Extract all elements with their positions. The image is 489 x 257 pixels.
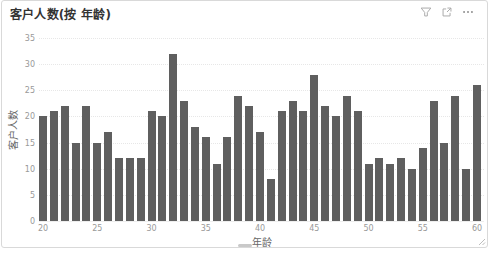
y-tick-label-10: 10 xyxy=(11,164,35,173)
bar-age-22[interactable] xyxy=(61,106,69,221)
x-tick-label-40: 40 xyxy=(248,224,272,233)
x-tick-label-45: 45 xyxy=(302,224,326,233)
bar-age-49[interactable] xyxy=(354,111,362,221)
x-tick-label-20: 20 xyxy=(31,224,55,233)
bar-age-28[interactable] xyxy=(126,158,134,221)
gridline-20 xyxy=(39,116,484,117)
bar-age-23[interactable] xyxy=(72,143,80,221)
bar-age-39[interactable] xyxy=(245,106,253,221)
bar-age-42[interactable] xyxy=(278,111,286,221)
bar-age-51[interactable] xyxy=(375,158,383,221)
bar-age-56[interactable] xyxy=(430,101,438,221)
y-tick-label-35: 35 xyxy=(11,34,35,43)
bar-age-38[interactable] xyxy=(234,96,242,221)
bar-age-33[interactable] xyxy=(180,101,188,221)
bar-age-25[interactable] xyxy=(93,143,101,221)
bar-age-43[interactable] xyxy=(289,101,297,221)
bar-age-50[interactable] xyxy=(365,164,373,222)
x-tick-label-30: 30 xyxy=(140,224,164,233)
bar-age-40[interactable] xyxy=(256,132,264,221)
gridline-25 xyxy=(39,90,484,91)
bar-age-20[interactable] xyxy=(39,116,47,221)
y-tick-label-5: 5 xyxy=(11,190,35,199)
y-tick-label-20: 20 xyxy=(11,112,35,121)
plot-area: 客户人数 年龄 05101520253035 20253035404550556… xyxy=(39,38,484,221)
page-title: 客户人数(按 年龄) xyxy=(10,5,111,22)
x-tick-label-25: 25 xyxy=(85,224,109,233)
bar-age-59[interactable] xyxy=(462,169,470,221)
bar-age-44[interactable] xyxy=(299,111,307,221)
x-axis-line xyxy=(39,221,484,222)
visual-header-toolbar xyxy=(419,5,475,19)
bar-age-48[interactable] xyxy=(343,96,351,221)
bar-age-52[interactable] xyxy=(386,164,394,222)
x-axis-title: 年龄 xyxy=(252,234,272,249)
bar-age-29[interactable] xyxy=(137,158,145,221)
gridline-30 xyxy=(39,64,484,65)
y-tick-label-15: 15 xyxy=(11,138,35,147)
bar-age-32[interactable] xyxy=(169,54,177,221)
bar-age-58[interactable] xyxy=(451,96,459,221)
bar-age-26[interactable] xyxy=(104,132,112,221)
resize-handle-icon[interactable] xyxy=(478,238,486,246)
bar-age-47[interactable] xyxy=(332,116,340,221)
bar-age-36[interactable] xyxy=(213,164,221,222)
bar-age-31[interactable] xyxy=(158,116,166,221)
bar-age-34[interactable] xyxy=(191,127,199,221)
filter-icon[interactable] xyxy=(419,5,433,19)
bar-age-41[interactable] xyxy=(267,179,275,221)
horizontal-scrollbar-thumb[interactable] xyxy=(238,244,252,247)
more-options-icon[interactable] xyxy=(461,5,475,19)
bar-age-46[interactable] xyxy=(321,106,329,221)
bar-age-53[interactable] xyxy=(397,158,405,221)
y-tick-label-25: 25 xyxy=(11,86,35,95)
bar-age-60[interactable] xyxy=(473,85,481,221)
x-tick-label-50: 50 xyxy=(357,224,381,233)
focus-mode-icon[interactable] xyxy=(440,5,454,19)
bar-age-57[interactable] xyxy=(440,143,448,221)
bar-age-24[interactable] xyxy=(82,106,90,221)
bar-age-35[interactable] xyxy=(202,137,210,221)
bar-age-37[interactable] xyxy=(223,137,231,221)
bar-age-54[interactable] xyxy=(408,169,416,221)
x-tick-label-55: 55 xyxy=(411,224,435,233)
y-tick-label-30: 30 xyxy=(11,60,35,69)
x-tick-label-35: 35 xyxy=(194,224,218,233)
bar-age-30[interactable] xyxy=(148,111,156,221)
bar-age-21[interactable] xyxy=(50,111,58,221)
bar-age-45[interactable] xyxy=(310,75,318,221)
chart-card: 客户人数(按 年龄) 客户人数 年龄 05101520253035 202530… xyxy=(1,0,488,248)
bar-age-55[interactable] xyxy=(419,148,427,221)
bar-age-27[interactable] xyxy=(115,158,123,221)
gridline-35 xyxy=(39,38,484,39)
x-tick-label-60: 60 xyxy=(465,224,489,233)
